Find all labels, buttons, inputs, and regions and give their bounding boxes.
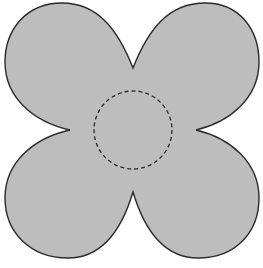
flower-shape — [0, 0, 263, 268]
flower-outline — [5, 3, 259, 258]
flower-diagram — [0, 0, 263, 268]
